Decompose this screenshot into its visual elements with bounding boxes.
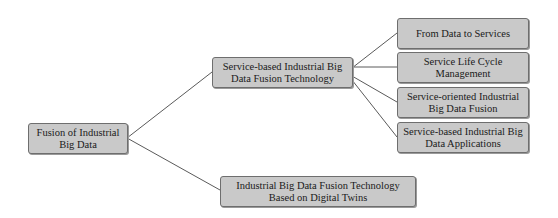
node-service-based-fusion-technology: Service-based Industrial Big Data Fusion… <box>212 57 353 88</box>
node-label: Service-oriented Industrial Big Data Fus… <box>402 91 524 115</box>
node-digital-twins-fusion-technology: Industrial Big Data Fusion Technology Ba… <box>220 176 416 207</box>
node-label: Service Life Cycle Management <box>402 56 524 80</box>
edge-to-from-data <box>352 33 397 68</box>
node-service-oriented-fusion: Service-oriented Industrial Big Data Fus… <box>397 87 529 118</box>
node-label: Service-based Industrial Big Data Fusion… <box>217 61 348 85</box>
edge-root-digital-twins <box>127 138 220 190</box>
node-label: Fusion of Industrial Big Data <box>33 127 123 151</box>
node-label: From Data to Services <box>416 28 510 40</box>
node-service-life-cycle-management: Service Life Cycle Management <box>397 52 529 83</box>
node-service-based-applications: Service-based Industrial Big Data Applic… <box>397 122 529 153</box>
node-label: Service-based Industrial Big Data Applic… <box>402 126 524 150</box>
node-label: Industrial Big Data Fusion Technology Ba… <box>225 180 411 204</box>
edge-root-service-based <box>127 72 212 138</box>
node-fusion-of-industrial-big-data: Fusion of Industrial Big Data <box>28 123 128 154</box>
node-from-data-to-services: From Data to Services <box>397 18 529 49</box>
